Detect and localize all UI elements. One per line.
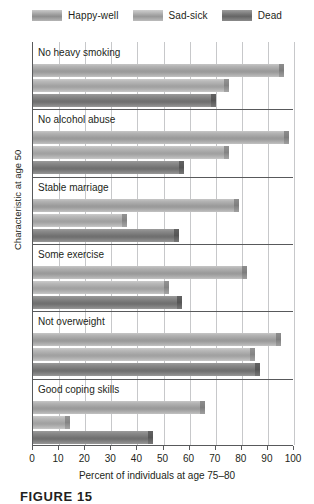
bar-end-cap (284, 131, 289, 144)
x-axis-tick-label: 90 (261, 453, 272, 464)
category-label: Some exercise (38, 249, 104, 260)
legend-item-dead: Dead (222, 10, 282, 21)
x-axis-tick-label: 80 (235, 453, 246, 464)
x-axis-tick (32, 446, 33, 450)
bar-body (33, 266, 242, 279)
bar-body (33, 146, 224, 159)
x-axis-tick (110, 446, 111, 450)
swatch-sad-sick-icon (133, 10, 163, 21)
bar-sad-sick (33, 146, 229, 159)
x-axis-tick (293, 446, 294, 450)
bar-end-cap (224, 146, 229, 159)
bar-body (33, 281, 164, 294)
x-axis-tick-label: 40 (131, 453, 142, 464)
bar-end-cap (122, 214, 127, 227)
group-separator (33, 311, 293, 312)
x-axis-tick-label: 60 (183, 453, 194, 464)
legend-label-happy-well: Happy-well (68, 10, 118, 21)
x-axis-tick-label: 100 (285, 453, 302, 464)
x-axis-tick-label: 0 (29, 453, 35, 464)
bar-end-cap (279, 64, 284, 77)
bar-body (33, 296, 177, 309)
bar-end-cap (234, 199, 239, 212)
bar-end-cap (177, 296, 182, 309)
bar-body (33, 199, 234, 212)
x-axis-label: Percent of individuals at age 75–80 (0, 470, 314, 481)
bar-happy-well (33, 199, 239, 212)
bar-sad-sick (33, 348, 255, 361)
category-label: No alcohol abuse (38, 114, 115, 125)
bar-end-cap (255, 363, 260, 376)
bar-end-cap (224, 79, 229, 92)
x-axis-tick-label: 20 (79, 453, 90, 464)
bar-sad-sick (33, 281, 169, 294)
plot-area: No heavy smokingNo alcohol abuseStable m… (32, 42, 293, 446)
bar-body (33, 79, 224, 92)
bar-happy-well (33, 64, 284, 77)
x-axis-tick (163, 446, 164, 450)
x-axis-tick-label: 10 (53, 453, 64, 464)
legend-item-sad-sick: Sad-sick (133, 10, 208, 21)
chart-legend: Happy-well Sad-sick Dead (0, 10, 314, 21)
bar-body (33, 431, 148, 444)
bar-end-cap (148, 431, 153, 444)
bar-dead (33, 296, 182, 309)
bar-dead (33, 229, 179, 242)
bar-body (33, 363, 255, 376)
bar-body (33, 64, 279, 77)
bar-body (33, 416, 65, 429)
x-axis-tick (241, 446, 242, 450)
category-label: Good coping skills (38, 384, 119, 395)
bar-dead (33, 363, 260, 376)
bar-end-cap (164, 281, 169, 294)
bar-happy-well (33, 333, 281, 346)
group-separator (33, 244, 293, 245)
bar-end-cap (211, 94, 216, 107)
x-axis-tick (136, 446, 137, 450)
category-label: Stable marriage (38, 182, 109, 193)
gridline (294, 42, 295, 445)
y-axis-label: Characteristic at age 50 (12, 149, 23, 249)
bar-body (33, 348, 250, 361)
x-axis-tick-label: 50 (157, 453, 168, 464)
bar-sad-sick (33, 416, 70, 429)
bar-happy-well (33, 401, 205, 414)
bar-dead (33, 161, 184, 174)
x-axis-tick (215, 446, 216, 450)
group-separator (33, 177, 293, 178)
x-axis-tick-label: 30 (105, 453, 116, 464)
legend-label-sad-sick: Sad-sick (169, 10, 208, 21)
bar-sad-sick (33, 79, 229, 92)
swatch-happy-well-icon (32, 10, 62, 21)
bar-end-cap (174, 229, 179, 242)
bar-body (33, 333, 276, 346)
x-axis-tick (84, 446, 85, 450)
group-separator (33, 379, 293, 380)
bar-body (33, 229, 174, 242)
bar-end-cap (242, 266, 247, 279)
bar-body (33, 131, 284, 144)
bar-end-cap (200, 401, 205, 414)
bar-end-cap (250, 348, 255, 361)
category-label: Not overweight (38, 316, 105, 327)
bar-dead (33, 94, 216, 107)
x-axis-tick (189, 446, 190, 450)
bar-happy-well (33, 266, 247, 279)
group-separator (33, 109, 293, 110)
bar-body (33, 401, 200, 414)
x-axis-tick (267, 446, 268, 450)
swatch-dead-icon (222, 10, 252, 21)
category-label: No heavy smoking (38, 47, 120, 58)
legend-item-happy-well: Happy-well (32, 10, 118, 21)
legend-label-dead: Dead (258, 10, 282, 21)
bar-dead (33, 431, 153, 444)
bar-sad-sick (33, 214, 127, 227)
bar-body (33, 214, 122, 227)
x-axis-tick (58, 446, 59, 450)
bar-happy-well (33, 131, 289, 144)
bar-end-cap (276, 333, 281, 346)
bar-body (33, 161, 179, 174)
figure-caption: FIGURE 15 (20, 489, 93, 504)
bar-end-cap (65, 416, 70, 429)
